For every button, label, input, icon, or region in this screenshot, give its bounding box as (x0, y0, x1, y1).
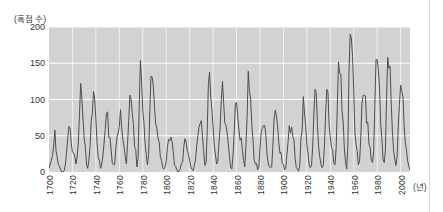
plot-svg (49, 27, 410, 172)
figure-right-border (429, 0, 430, 212)
x-tick-label: 1840 (209, 175, 219, 195)
y-tick-label: 0 (5, 167, 45, 177)
sunspot-chart-figure: (흑점 수) 200150100500 17001720174017601780… (0, 0, 443, 212)
x-tick-label: 1720 (68, 175, 78, 195)
y-tick-label: 100 (5, 95, 45, 105)
x-tick-label: 1740 (92, 175, 102, 195)
x-tick-label: 1920 (303, 175, 313, 195)
x-tick-label: 2000 (397, 175, 407, 195)
x-tick-label: 1800 (162, 175, 172, 195)
x-tick-label: 1780 (139, 175, 149, 195)
x-tick-label: 1820 (186, 175, 196, 195)
y-axis: 200150100500 (0, 27, 45, 172)
x-tick-label: 1980 (373, 175, 383, 195)
x-tick-label: 1860 (233, 175, 243, 195)
y-tick-label: 50 (5, 131, 45, 141)
sunspot-line-series (49, 34, 410, 172)
y-tick-label: 150 (5, 58, 45, 68)
x-tick-label: 1880 (256, 175, 266, 195)
x-tick-label: 1940 (326, 175, 336, 195)
x-tick-label: 1900 (279, 175, 289, 195)
y-tick-label: 200 (5, 22, 45, 32)
x-tick-label: 1700 (45, 175, 55, 195)
plot-panel (49, 27, 410, 172)
x-tick-label: 1760 (115, 175, 125, 195)
x-tick-label: 1960 (350, 175, 360, 195)
x-axis: 1700172017401760178018001820184018601880… (49, 172, 410, 212)
x-axis-unit-label: (년) (413, 180, 427, 192)
